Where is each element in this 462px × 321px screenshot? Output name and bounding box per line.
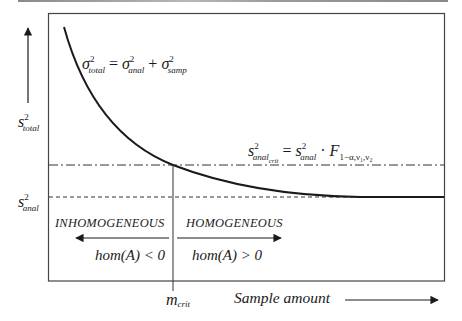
inhomogeneous-label: INHOMOGENEOUS bbox=[55, 217, 165, 230]
anal-variance-label: s2anal bbox=[18, 194, 39, 210]
y-axis-label: s2total bbox=[18, 114, 39, 130]
plot-frame bbox=[49, 14, 445, 282]
total-variance-formula: σ2total = σ2anal + σ2samp bbox=[82, 56, 187, 72]
homogeneous-label: HOMOGENEOUS bbox=[186, 217, 283, 230]
homogeneous-condition: hom(A) > 0 bbox=[192, 248, 262, 263]
m-crit-label: mcrit bbox=[166, 292, 190, 308]
x-axis-label: Sample amount bbox=[234, 290, 330, 306]
diagram-canvas bbox=[0, 0, 462, 321]
total-variance-curve bbox=[64, 27, 444, 197]
inhomogeneous-condition: hom(A) < 0 bbox=[95, 248, 165, 263]
critical-variance-formula: s2analcrit = s2anal · F1−α,ν₁,ν₂ bbox=[248, 143, 373, 159]
